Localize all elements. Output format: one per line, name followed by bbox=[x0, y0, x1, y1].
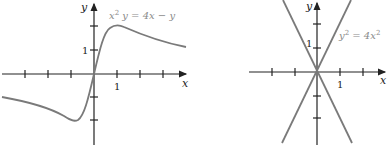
equation-label-left: x2 y = 4x − y bbox=[109, 9, 175, 21]
equation-label-right: y2 = 4x2 bbox=[338, 29, 380, 41]
graphs-figure: 1 1 y x x2 y = 4x − y 1 1 y x y2 = 4x2 bbox=[0, 0, 392, 145]
y-tick-label-1: 1 bbox=[306, 38, 312, 49]
y-tick-label-1: 1 bbox=[82, 45, 88, 56]
y-axis-label: y bbox=[305, 0, 313, 13]
x-tick-label-1: 1 bbox=[114, 81, 120, 92]
x-axis-label: x bbox=[380, 74, 387, 87]
y-axis-label: y bbox=[80, 1, 88, 14]
x-tick-label-1: 1 bbox=[337, 79, 343, 90]
right-graph: 1 1 y x y2 = 4x2 bbox=[249, 0, 387, 145]
left-graph: 1 1 y x x2 y = 4x − y bbox=[2, 1, 189, 145]
x-axis-label: x bbox=[182, 77, 189, 90]
